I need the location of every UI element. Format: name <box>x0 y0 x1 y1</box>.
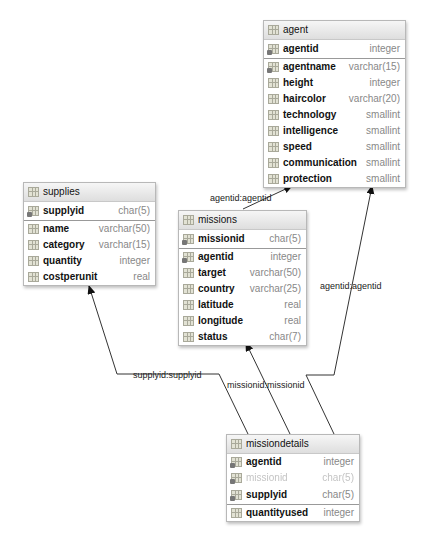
column-type: smallint <box>366 123 400 139</box>
column-row[interactable]: costperunitreal <box>24 269 155 285</box>
column-row[interactable]: agentidinteger <box>179 249 306 265</box>
column-name: missionid <box>198 231 269 247</box>
column-row[interactable]: technologysmallint <box>264 107 405 123</box>
primary-key-icon <box>28 206 39 216</box>
column-name: country <box>198 281 250 297</box>
column-type: varchar(50) <box>99 221 150 237</box>
column-type: char(5) <box>322 487 354 503</box>
column-name: name <box>43 221 99 237</box>
column-type: smallint <box>366 139 400 155</box>
column-icon <box>28 256 39 266</box>
table-name: missiondetails <box>246 435 309 453</box>
column-type: varchar(15) <box>349 59 400 75</box>
column-icon <box>183 300 194 310</box>
column-name: agentid <box>283 41 369 57</box>
column-row[interactable]: agentidinteger <box>227 454 359 470</box>
table-agent[interactable]: agent agentidinteger agentnamevarchar(15… <box>263 20 406 188</box>
column-icon <box>183 332 194 342</box>
table-header[interactable]: missions <box>179 211 306 230</box>
column-type: smallint <box>366 155 400 171</box>
column-type: smallint <box>366 107 400 123</box>
table-icon <box>28 187 39 197</box>
column-row[interactable]: supplyidchar(5) <box>24 202 155 221</box>
column-row[interactable]: statuschar(7) <box>179 329 306 345</box>
column-icon <box>231 508 242 518</box>
column-row[interactable]: longitudereal <box>179 313 306 329</box>
column-name: protection <box>283 171 366 187</box>
column-icon <box>268 78 279 88</box>
column-name: latitude <box>198 297 284 313</box>
table-name: agent <box>283 21 308 39</box>
column-icon <box>183 284 194 294</box>
column-row[interactable]: intelligencesmallint <box>264 123 405 139</box>
link-label-missiondetails-supplies: supplyid:supplyid <box>133 370 202 380</box>
column-row[interactable]: speedsmallint <box>264 139 405 155</box>
column-icon <box>268 110 279 120</box>
table-icon <box>231 439 242 449</box>
column-type: real <box>133 269 150 285</box>
table-header[interactable]: missiondetails <box>227 435 359 454</box>
primary-key-icon <box>231 490 242 500</box>
table-name: missions <box>198 211 237 229</box>
column-type: char(5) <box>118 203 150 219</box>
column-row[interactable]: missionidchar(5) <box>227 470 359 486</box>
column-icon <box>28 240 39 250</box>
primary-key-icon <box>231 473 242 483</box>
column-row[interactable]: agentnamevarchar(15) <box>264 59 405 75</box>
primary-key-icon <box>231 457 242 467</box>
column-name: haircolor <box>283 91 349 107</box>
primary-key-icon <box>268 44 279 54</box>
column-type: smallint <box>366 171 400 187</box>
column-row[interactable]: namevarchar(50) <box>24 221 155 237</box>
column-type: integer <box>369 41 400 57</box>
column-icon <box>268 94 279 104</box>
column-row[interactable]: missionidchar(5) <box>179 230 306 249</box>
table-header[interactable]: agent <box>264 21 405 40</box>
column-row[interactable]: protectionsmallint <box>264 171 405 187</box>
column-name: agentid <box>198 249 270 265</box>
key-column-icon <box>268 62 279 72</box>
link-label-missiondetails-agent: agentid:agentid <box>320 281 382 291</box>
column-type: char(7) <box>269 329 301 345</box>
link-label-missiondetails-missions: missionid:missionid <box>227 380 305 390</box>
column-name: technology <box>283 107 366 123</box>
column-name: agentname <box>283 59 349 75</box>
table-header[interactable]: supplies <box>24 183 155 202</box>
column-type: char(5) <box>322 470 354 486</box>
column-icon <box>268 158 279 168</box>
column-row[interactable]: latitudereal <box>179 297 306 313</box>
link-missiondetails-agent[interactable] <box>306 186 372 434</box>
column-row[interactable]: targetvarchar(50) <box>179 265 306 281</box>
column-name: intelligence <box>283 123 366 139</box>
column-name: height <box>283 75 369 91</box>
column-row[interactable]: quantityusedinteger <box>227 505 359 521</box>
column-row[interactable]: countryvarchar(25) <box>179 281 306 297</box>
column-name: target <box>198 265 250 281</box>
column-row[interactable]: agentidinteger <box>264 40 405 59</box>
column-type: varchar(50) <box>250 265 301 281</box>
link-label-missions-agent: agentid:agentid <box>210 193 272 203</box>
column-type: integer <box>323 505 354 521</box>
column-row[interactable]: heightinteger <box>264 75 405 91</box>
column-row[interactable]: haircolorvarchar(20) <box>264 91 405 107</box>
column-name: supplyid <box>43 203 118 219</box>
column-type: integer <box>270 249 301 265</box>
table-icon <box>183 215 194 225</box>
column-icon <box>268 126 279 136</box>
column-row[interactable]: categoryvarchar(15) <box>24 237 155 253</box>
table-icon <box>268 25 279 35</box>
table-missiondetails[interactable]: missiondetails agentidinteger missionidc… <box>226 434 360 522</box>
column-name: missionid <box>246 470 322 486</box>
column-name: longitude <box>198 313 284 329</box>
column-icon <box>268 142 279 152</box>
table-supplies[interactable]: supplies supplyidchar(5) namevarchar(50)… <box>23 182 156 286</box>
column-icon <box>268 174 279 184</box>
column-name: costperunit <box>43 269 133 285</box>
column-row[interactable]: communicationsmallint <box>264 155 405 171</box>
column-type: integer <box>119 253 150 269</box>
column-icon <box>183 268 194 278</box>
table-missions[interactable]: missions missionidchar(5) agentidinteger… <box>178 210 307 346</box>
column-row[interactable]: supplyidchar(5) <box>227 486 359 505</box>
column-row[interactable]: quantityinteger <box>24 253 155 269</box>
primary-key-icon <box>183 234 194 244</box>
